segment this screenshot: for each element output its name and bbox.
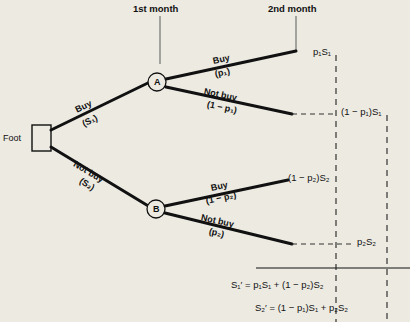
- decision-tree-figure: 1st month 2nd month Foot A B Buy (S₁) No…: [0, 0, 410, 322]
- outcome-label-p2s2: p₂S₂: [357, 237, 376, 247]
- tree-graphics: [0, 0, 410, 322]
- branch-line-root-buy: [51, 81, 152, 130]
- formula-s2-prime: S₂′ = (1 − p₁)S₁ + p₂S₂: [255, 303, 348, 313]
- formula-s1-prime: S₁′ = p₁S₁ + (1 − p₂)S₂: [231, 280, 323, 290]
- outcome-label-p1s1: p₁S₁: [313, 47, 331, 57]
- branch-line-a-buy: [166, 51, 296, 79]
- root-label-foot: Foot: [3, 134, 21, 143]
- outcome-label-1-minus-p1-s1: (1 − p₁)S₁: [341, 107, 381, 117]
- root-node-foot: [32, 125, 51, 151]
- node-b-label: B: [153, 205, 160, 214]
- node-a-label: A: [154, 78, 161, 87]
- heading-first-month: 1st month: [133, 4, 178, 14]
- outcome-label-1-minus-p2-s2: (1 − p₂)S₂: [288, 173, 329, 183]
- heading-second-month: 2nd month: [268, 4, 317, 14]
